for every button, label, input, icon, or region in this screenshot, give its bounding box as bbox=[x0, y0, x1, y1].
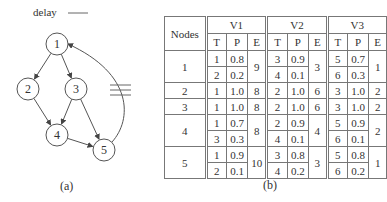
graph-nodes: 12345 bbox=[17, 33, 115, 161]
p-cell: 0.9 bbox=[348, 115, 369, 131]
t-cell: 4 bbox=[267, 163, 287, 179]
node-cell: 5 bbox=[165, 147, 207, 179]
t-cell: 2 bbox=[206, 67, 226, 83]
svg-text:5: 5 bbox=[101, 143, 107, 157]
p-cell: 0.7 bbox=[348, 51, 369, 67]
edge-1-2 bbox=[35, 53, 52, 79]
t-cell: 3 bbox=[267, 147, 287, 163]
e-cell: 2 bbox=[369, 83, 387, 99]
e-cell: 2 bbox=[369, 99, 387, 115]
t-cell: 1 bbox=[206, 115, 226, 131]
t-cell: 6 bbox=[327, 131, 347, 147]
t-cell: 6 bbox=[327, 67, 347, 83]
e-cell: 4 bbox=[308, 115, 327, 147]
node-4: 4 bbox=[46, 124, 68, 146]
p-cell: 0.3 bbox=[348, 67, 369, 83]
p-cell: 1.0 bbox=[226, 99, 247, 115]
table-row: 211.0821.0631.02 bbox=[165, 83, 387, 99]
subheader-e: E bbox=[308, 34, 327, 51]
legend-label: delay bbox=[33, 6, 57, 18]
t-cell: 2 bbox=[267, 83, 287, 99]
t-cell: 1 bbox=[206, 99, 226, 115]
p-cell: 0.8 bbox=[226, 51, 247, 67]
schedule-table: Nodes V1 V2 V3 TPETPETPE 110.8930.9350.7… bbox=[164, 16, 387, 179]
subheader-e: E bbox=[369, 34, 387, 51]
p-cell: 0.1 bbox=[287, 131, 308, 147]
svg-text:2: 2 bbox=[25, 82, 31, 96]
svg-text:4: 4 bbox=[54, 128, 60, 142]
t-cell: 6 bbox=[327, 163, 347, 179]
p-cell: 1.0 bbox=[287, 99, 308, 115]
e-cell: 1 bbox=[369, 147, 387, 179]
node-cell: 1 bbox=[165, 51, 207, 83]
table-body: 110.8930.9350.7120.240.160.3211.0821.063… bbox=[165, 51, 387, 179]
table-row: 410.7820.9450.92 bbox=[165, 115, 387, 131]
table-row: 510.91030.8350.81 bbox=[165, 147, 387, 163]
node-cell: 4 bbox=[165, 115, 207, 147]
table-row: 110.8930.9350.71 bbox=[165, 51, 387, 67]
p-cell: 0.1 bbox=[348, 131, 369, 147]
e-cell: 8 bbox=[248, 99, 267, 115]
p-cell: 1.0 bbox=[287, 83, 308, 99]
edge-3-5 bbox=[81, 99, 99, 139]
e-cell: 6 bbox=[308, 99, 327, 115]
p-cell: 0.9 bbox=[287, 115, 308, 131]
edge-4-5 bbox=[67, 138, 92, 146]
p-cell: 0.9 bbox=[226, 147, 247, 163]
e-cell: 9 bbox=[248, 51, 267, 83]
p-cell: 1.0 bbox=[348, 83, 369, 99]
node-2: 2 bbox=[17, 78, 39, 100]
e-cell: 6 bbox=[308, 83, 327, 99]
subheader-e: E bbox=[248, 34, 267, 51]
t-cell: 3 bbox=[327, 99, 347, 115]
table-row: 311.0821.0631.02 bbox=[165, 99, 387, 115]
t-cell: 3 bbox=[206, 131, 226, 147]
p-cell: 1.0 bbox=[226, 83, 247, 99]
t-cell: 4 bbox=[267, 67, 287, 83]
t-cell: 1 bbox=[206, 51, 226, 67]
t-cell: 5 bbox=[327, 51, 347, 67]
subheader-p: P bbox=[348, 34, 369, 51]
p-cell: 0.7 bbox=[226, 115, 247, 131]
graph-caption: (a) bbox=[60, 179, 73, 193]
t-cell: 3 bbox=[267, 51, 287, 67]
edge-2-4 bbox=[34, 98, 51, 125]
svg-text:3: 3 bbox=[73, 82, 79, 96]
p-cell: 0.3 bbox=[226, 131, 247, 147]
t-cell: 5 bbox=[327, 147, 347, 163]
e-cell: 1 bbox=[369, 51, 387, 83]
t-cell: 2 bbox=[267, 99, 287, 115]
t-cell: 2 bbox=[206, 163, 226, 179]
header-v2: V2 bbox=[267, 17, 327, 34]
header-v3: V3 bbox=[327, 17, 386, 34]
t-cell: 2 bbox=[267, 115, 287, 131]
edge-1-3 bbox=[61, 54, 71, 78]
subheader-p: P bbox=[226, 34, 247, 51]
e-cell: 2 bbox=[369, 115, 387, 147]
p-cell: 0.8 bbox=[348, 147, 369, 163]
edge-3-4 bbox=[62, 99, 72, 124]
node-1: 1 bbox=[46, 33, 68, 55]
t-cell: 5 bbox=[327, 115, 347, 131]
node-5: 5 bbox=[93, 139, 115, 161]
p-cell: 0.8 bbox=[287, 147, 308, 163]
t-cell: 4 bbox=[267, 131, 287, 147]
p-cell: 0.2 bbox=[287, 163, 308, 179]
p-cell: 0.2 bbox=[348, 163, 369, 179]
e-cell: 3 bbox=[308, 51, 327, 83]
subheader-t: T bbox=[206, 34, 226, 51]
p-cell: 0.1 bbox=[287, 67, 308, 83]
subheader-t: T bbox=[327, 34, 347, 51]
task-graph: delay 12345 (a) bbox=[0, 0, 150, 202]
p-cell: 1.0 bbox=[348, 99, 369, 115]
header-v1: V1 bbox=[206, 17, 267, 34]
p-cell: 0.1 bbox=[226, 163, 247, 179]
subheader-t: T bbox=[267, 34, 287, 51]
node-cell: 2 bbox=[165, 83, 207, 99]
t-cell: 1 bbox=[206, 83, 226, 99]
table-caption: (b) bbox=[263, 178, 277, 193]
header-nodes: Nodes bbox=[165, 17, 207, 51]
p-cell: 0.9 bbox=[287, 51, 308, 67]
p-cell: 0.2 bbox=[226, 67, 247, 83]
e-cell: 8 bbox=[248, 83, 267, 99]
